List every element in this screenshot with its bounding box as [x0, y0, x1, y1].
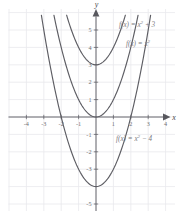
y-tick-label: -5: [86, 200, 91, 207]
x-tick-label: 1: [112, 120, 115, 127]
x-tick-label: 2: [129, 120, 132, 127]
x-tick-label: -3: [41, 120, 46, 127]
y-tick-label: 4: [88, 44, 91, 51]
y-tick-label: -3: [86, 165, 91, 172]
y-tick-label: -2: [86, 148, 91, 155]
curve-label-down-tail: − 4: [140, 135, 152, 143]
y-tick-label: 5: [88, 26, 91, 33]
y-tick-label: -1: [86, 131, 91, 138]
curve-label-shifted-down: f(x) = x2 − 4: [116, 134, 153, 143]
curve-label-up-tail: + 3: [143, 21, 155, 29]
x-tick-label: -1: [76, 120, 81, 127]
y-tick-label: 1: [88, 96, 91, 103]
y-tick-label: 2: [88, 78, 91, 85]
parabola-graph-figure: x y f(x) = x2 + 3 f(x) = x2 f(x) = x2 − …: [0, 0, 184, 218]
curve-label-down-main: f(x) = x: [116, 135, 138, 143]
curve-label-base-main: f(x) = x: [126, 40, 148, 48]
x-axis-label: x: [171, 113, 176, 122]
x-tick-label: 4: [164, 120, 167, 127]
x-tick-label: -2: [59, 120, 64, 127]
coordinate-plane-chart: x y f(x) = x2 + 3 f(x) = x2 f(x) = x2 − …: [0, 0, 184, 218]
curve-label-shifted-up: f(x) = x2 + 3: [119, 20, 156, 29]
y-axis-label: y: [94, 0, 99, 9]
x-tick-label: 3: [147, 120, 150, 127]
y-tick-label: 3: [88, 61, 91, 68]
curve-label-base: f(x) = x2: [126, 39, 151, 48]
x-tick-label: -4: [24, 120, 29, 127]
curve-label-up-main: f(x) = x: [119, 21, 141, 29]
